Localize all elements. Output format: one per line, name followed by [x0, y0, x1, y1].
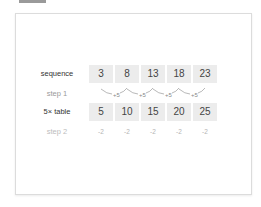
step2-row: step 2 -2 -2 -2 -2 -2	[16, 123, 251, 141]
step2-diff: -2	[193, 123, 217, 141]
step1-diff: +5	[165, 92, 173, 98]
sequence-cell: 8	[115, 65, 139, 83]
step2-diff: -2	[141, 123, 165, 141]
table-cell: 10	[115, 103, 139, 121]
step2-diff: -2	[89, 123, 113, 141]
sequence-cell: 3	[89, 65, 113, 83]
top-tab-indicator	[19, 0, 46, 3]
table-cell: 5	[89, 103, 113, 121]
sequence-label: sequence	[28, 65, 86, 83]
step1-diff: +5	[113, 92, 121, 98]
step1-label: step 1	[28, 85, 86, 103]
table-cell: 15	[141, 103, 165, 121]
step1-diff: +5	[191, 92, 199, 98]
step2-diff: -2	[167, 123, 191, 141]
sequence-row: sequence 3 8 13 18 23	[16, 65, 251, 83]
sequence-cell: 23	[193, 65, 217, 83]
step1-row: step 1 +5 +5 +5 +5	[16, 85, 251, 103]
step1-diff: +5	[139, 92, 147, 98]
sequence-cell: 18	[167, 65, 191, 83]
sequence-cell: 13	[141, 65, 165, 83]
table-cell: 20	[167, 103, 191, 121]
difference-arcs: +5 +5 +5 +5	[89, 85, 219, 103]
step2-label: step 2	[28, 123, 86, 141]
five-times-table-row: 5× table 5 10 15 20 25	[16, 103, 251, 121]
sequence-diagram-card: sequence 3 8 13 18 23 step 1 +5 +5 +5 +5…	[15, 13, 252, 195]
five-times-table-label: 5× table	[28, 103, 86, 121]
step2-diff: -2	[115, 123, 139, 141]
table-cell: 25	[193, 103, 217, 121]
